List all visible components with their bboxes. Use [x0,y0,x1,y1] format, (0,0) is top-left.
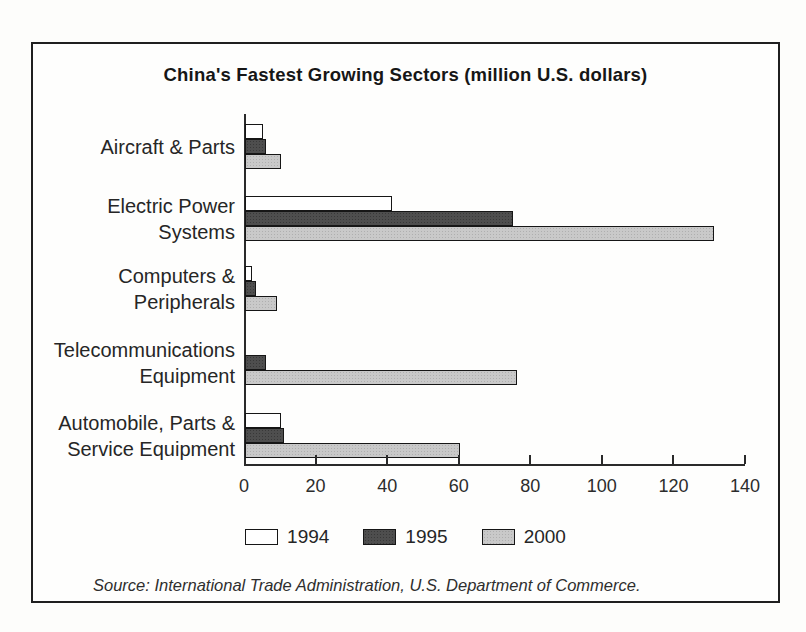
bar-1994 [245,124,263,139]
x-axis-tick [529,455,531,464]
category-label: Automobile, Parts & Service Equipment [33,403,235,468]
bar-1995 [245,428,284,443]
x-axis-tick [672,455,674,464]
bar-1995 [245,211,513,226]
bar-1995 [245,281,256,296]
bar-1995 [245,139,266,154]
x-axis-line [244,464,745,466]
x-axis-tick-label: 140 [713,476,777,497]
figure-frame: China's Fastest Growing Sectors (million… [31,42,780,603]
legend-label: 1994 [287,526,329,548]
legend: 199419952000 [33,526,778,548]
legend-label: 2000 [524,526,566,548]
x-axis-tick-label: 100 [570,476,634,497]
x-axis-tick [386,455,388,464]
bar-2000 [245,154,281,169]
bar-1995 [245,355,266,370]
legend-item-1994: 1994 [245,526,329,548]
x-axis-tick-label: 0 [212,476,276,497]
bar-2000 [245,443,460,458]
plot-area: Aircraft & PartsElectric Power SystemsCo… [33,44,778,601]
legend-item-2000: 2000 [482,526,566,548]
x-axis-tick-label: 120 [641,476,705,497]
x-axis-tick-label: 80 [498,476,562,497]
bar-2000 [245,226,714,241]
legend-label: 1995 [405,526,447,548]
source-note: Source: International Trade Administrati… [93,576,640,595]
legend-swatch-2000 [482,529,515,545]
x-axis-tick-label: 20 [284,476,348,497]
legend-item-1995: 1995 [363,526,447,548]
bar-1994 [245,196,392,211]
x-axis-tick [601,455,603,464]
x-axis-tick-label: 60 [427,476,491,497]
legend-swatch-1995 [363,529,396,545]
category-label: Aircraft & Parts [33,114,235,179]
bar-2000 [245,296,277,311]
category-label: Electric Power Systems [33,186,235,251]
bar-1994 [245,266,252,281]
x-axis-tick [315,455,317,464]
x-axis-tick-label: 40 [355,476,419,497]
x-axis-tick [744,455,746,464]
bar-1994 [245,413,281,428]
category-label: Computers & Peripherals [33,256,235,321]
legend-swatch-1994 [245,529,278,545]
bar-2000 [245,370,517,385]
category-label: Telecommunications Equipment [33,330,235,395]
x-axis-tick [458,455,460,464]
